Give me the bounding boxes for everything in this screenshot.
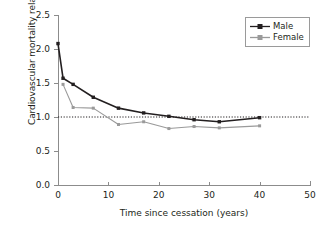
legend-label-female: Female [271,32,304,43]
data-point-female [258,124,261,127]
data-point-male [92,96,95,99]
data-point-female [142,120,145,123]
data-point-male [142,111,145,114]
data-point-female [218,126,221,129]
data-point-male [258,116,261,119]
data-point-male [71,83,74,86]
data-point-male [56,42,59,45]
data-point-female [72,106,75,109]
chart-figure: Cardiovascular mortality relative risk T… [0,0,328,230]
legend-item-male: Male [249,21,304,32]
legend-label-male: Male [271,21,293,32]
legend-swatch-male [249,21,271,32]
legend-item-female: Female [249,32,304,43]
data-point-female [92,107,95,110]
data-point-male [117,106,120,109]
series-line-female [63,84,260,128]
series-line-male [58,44,260,122]
data-point-male [218,120,221,123]
data-point-female [62,83,65,86]
legend: Male Female [245,17,310,47]
data-point-male [167,115,170,118]
data-point-female [117,123,120,126]
legend-swatch-female [249,32,271,43]
data-point-male [192,118,195,121]
data-point-female [193,125,196,128]
data-point-male [61,77,64,80]
data-point-female [167,127,170,130]
